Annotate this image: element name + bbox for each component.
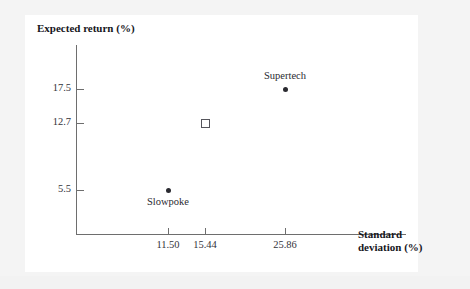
x-tick-label-15-44: 15.44 <box>175 239 235 250</box>
y-tick-mark-17-5 <box>77 89 84 90</box>
data-label-slowpoke: Slowpoke <box>123 196 213 207</box>
x-axis-title-line2: deviation (%) <box>358 241 422 253</box>
y-tick-mark-5-5 <box>77 190 84 191</box>
x-tick-mark-11-50 <box>168 228 169 235</box>
figure-card: Expected return (%) Standard deviation (… <box>25 15 418 272</box>
y-axis-title: Expected return (%) <box>37 22 135 35</box>
data-point-supertech[interactable] <box>283 87 288 92</box>
x-tick-mark-15-44 <box>205 228 206 235</box>
x-axis-title-line1: Standard <box>358 228 402 240</box>
scatter-plot: Expected return (%) Standard deviation (… <box>25 15 418 272</box>
y-tick-label-12-7: 12.7 <box>27 116 71 127</box>
data-point-portfolio[interactable] <box>201 119 210 128</box>
x-axis-line <box>76 234 406 235</box>
y-axis-line <box>76 45 77 235</box>
x-tick-label-25-86: 25.86 <box>255 239 315 250</box>
x-axis-title: Standard deviation (%) <box>358 228 438 254</box>
x-tick-mark-25-86 <box>285 228 286 235</box>
y-tick-label-5-5: 5.5 <box>27 183 71 194</box>
data-point-slowpoke[interactable] <box>166 188 171 193</box>
page-background: Expected return (%) Standard deviation (… <box>0 0 470 289</box>
data-label-supertech: Supertech <box>240 70 330 81</box>
y-tick-mark-12-7 <box>77 123 84 124</box>
y-tick-label-17-5: 17.5 <box>27 82 71 93</box>
